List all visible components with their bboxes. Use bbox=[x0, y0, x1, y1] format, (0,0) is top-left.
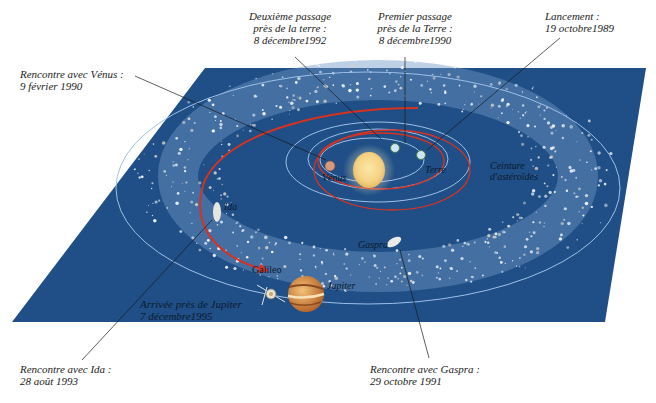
galileo-trajectory-diagram: Rencontre avec Vénus : 9 février 1990 De… bbox=[0, 0, 656, 403]
jupiter-icon bbox=[288, 276, 324, 312]
earth-icon-2 bbox=[417, 151, 426, 160]
venus-icon bbox=[325, 161, 335, 171]
callout-subtitle: près de la terre : bbox=[230, 22, 350, 34]
callout-title: Rencontre avec Ida : bbox=[20, 363, 112, 375]
callout-title: Arrivée près de Jupiter bbox=[140, 298, 242, 310]
ida-asteroid-icon bbox=[213, 202, 221, 222]
callout-first-earth-flyby: Premier passage près de la Terre : 8 déc… bbox=[360, 10, 470, 46]
callout-second-earth-flyby: Deuxième passage près de la terre : 8 dé… bbox=[230, 10, 350, 46]
jupiter-label: Jupiter bbox=[327, 280, 355, 291]
callout-ida-encounter: Rencontre avec Ida : 28 août 1993 bbox=[20, 363, 112, 387]
callout-launch: Lancement : 19 octobre1989 bbox=[545, 10, 614, 34]
callout-date: 8 décembre1992 bbox=[230, 34, 350, 46]
ida-label: Ida bbox=[224, 201, 237, 212]
earth-label: Terre bbox=[425, 164, 446, 175]
callout-jupiter-arrival: Arrivée près de Jupiter 7 décembre1995 bbox=[140, 298, 242, 322]
venus-label: Vénus bbox=[322, 172, 346, 183]
sun-icon bbox=[353, 152, 385, 188]
callout-date: 8 décembre1990 bbox=[360, 34, 470, 46]
callout-title: Deuxième passage bbox=[230, 10, 350, 22]
callout-date: 7 décembre1995 bbox=[140, 310, 242, 322]
callout-title: Lancement : bbox=[545, 10, 614, 22]
gaspra-label: Gaspra bbox=[358, 239, 388, 250]
callout-date: 28 août 1993 bbox=[20, 375, 112, 387]
asteroid-belt-label-line1: Ceinture bbox=[490, 160, 525, 171]
earth-icon-1 bbox=[391, 144, 400, 153]
callout-title: Rencontre avec Vénus : bbox=[20, 68, 124, 80]
callout-title: Premier passage bbox=[360, 10, 470, 22]
galileo-label: Galileo bbox=[252, 264, 281, 275]
callout-venus-encounter: Rencontre avec Vénus : 9 février 1990 bbox=[20, 68, 124, 92]
callout-date: 29 octobre 1991 bbox=[370, 375, 480, 387]
asteroid-belt-label-line2: d'astéroïdes bbox=[490, 171, 538, 182]
callout-date: 19 octobre1989 bbox=[545, 22, 614, 34]
solar-system-plane-svg bbox=[0, 0, 656, 403]
callout-title: Rencontre avec Gaspra : bbox=[370, 363, 480, 375]
callout-date: 9 février 1990 bbox=[20, 80, 124, 92]
callout-gaspra-encounter: Rencontre avec Gaspra : 29 octobre 1991 bbox=[370, 363, 480, 387]
callout-subtitle: près de la Terre : bbox=[360, 22, 470, 34]
